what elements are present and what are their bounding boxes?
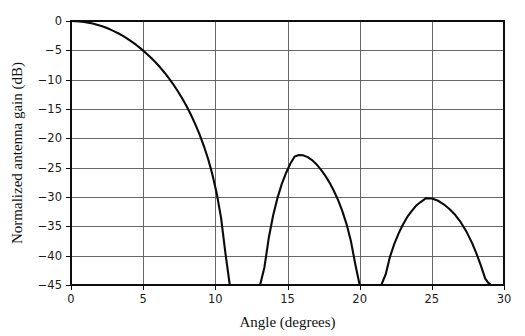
y-tick-label: −10: [38, 73, 62, 87]
y-tick-label: −35: [38, 219, 62, 233]
y-tick-label: −20: [38, 131, 62, 145]
y-tick-label: −5: [45, 43, 62, 57]
x-axis-title: Angle (degrees): [239, 314, 335, 331]
y-tick-label: 0: [55, 14, 62, 28]
y-axis-title: Normalized antenna gain (dB): [9, 62, 26, 244]
y-tick-label: −15: [38, 102, 62, 116]
x-tick-label: 25: [425, 292, 440, 306]
y-tick-label: −25: [38, 161, 62, 175]
x-tick-label: 20: [352, 292, 367, 306]
x-tick-label: 15: [280, 292, 295, 306]
chart-svg: 051015202530 0−5−10−15−20−25−30−35−40−45…: [0, 0, 525, 336]
y-tick-label: −30: [38, 190, 62, 204]
x-tick-label: 5: [140, 292, 147, 306]
x-tick-label: 30: [497, 292, 512, 306]
y-tick-label: −40: [38, 249, 62, 263]
y-tick-label: −45: [38, 278, 62, 292]
chart-page: 051015202530 0−5−10−15−20−25−30−35−40−45…: [0, 0, 525, 336]
x-tick-label: 10: [208, 292, 223, 306]
x-tick-label: 0: [67, 292, 74, 306]
antenna-pattern-chart: 051015202530 0−5−10−15−20−25−30−35−40−45…: [0, 0, 525, 336]
